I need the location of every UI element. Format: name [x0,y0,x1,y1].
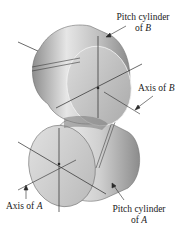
axis-b-line-back [18,42,40,52]
leader-axis-b [135,96,153,110]
label-pitch-cylinder-b: Pitch cylinder of B [108,12,178,34]
label-axis-a: Axis of A [6,201,54,212]
label-pitch-b-line2: of B [108,23,178,34]
pitch-cylinder-b [32,25,142,131]
crossed-pitch-cylinders-diagram [0,0,186,233]
label-pitch-a-line2: of A [104,215,174,226]
label-pitch-cylinder-a: Pitch cylinder of A [104,204,174,226]
pitch-cylinder-a [18,116,140,213]
label-pitch-b-line1: Pitch cylinder [108,12,178,23]
leader-axis-a [24,185,28,199]
label-pitch-a-line1: Pitch cylinder [104,204,174,215]
label-axis-b: Axis of B [138,83,184,94]
